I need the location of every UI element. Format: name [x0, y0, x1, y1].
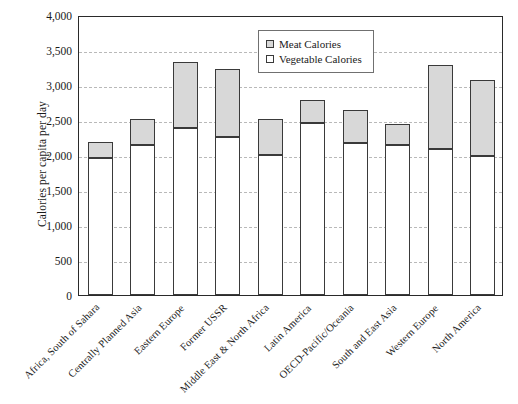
legend-label-vegetable: Vegetable Calories — [279, 53, 362, 65]
x-axis-tick-label: South and East Asia — [330, 302, 399, 371]
x-axis-tick-label: Africa, South of Sahara — [22, 302, 102, 382]
x-axis-tick-label: North America — [430, 302, 483, 355]
bar-segment-meat — [343, 110, 368, 143]
y-axis-tick-label: 3,500 — [10, 45, 72, 57]
bar-2[interactable] — [130, 119, 155, 295]
filled-gray-square-icon — [266, 40, 274, 48]
bar-segment-meat — [428, 65, 453, 149]
bar-segment-meat — [215, 69, 240, 137]
legend-label-meat: Meat Calories — [279, 38, 341, 50]
bar-segment-meat — [130, 119, 155, 146]
x-axis-tick-label: OECD-Pacific/Oceania — [277, 302, 356, 381]
bar-9[interactable] — [428, 65, 453, 295]
legend-item-vegetable: Vegetable Calories — [266, 51, 366, 66]
bar-segment-vegetable — [173, 128, 198, 295]
bar-7[interactable] — [343, 110, 368, 295]
white-square-icon — [266, 55, 274, 63]
y-axis-tick-label: 1,500 — [10, 185, 72, 197]
y-axis-tick-label: 0 — [10, 290, 72, 302]
x-axis-tick-label: Centrally Planned Asia — [66, 302, 144, 380]
bar-segment-meat — [470, 80, 495, 156]
bar-4[interactable] — [215, 69, 240, 295]
bar-segment-vegetable — [385, 145, 410, 296]
bar-segment-meat — [258, 119, 283, 155]
x-axis-tick-label: Latin America — [262, 302, 313, 353]
chart-legend: Meat Calories Vegetable Calories — [258, 30, 374, 73]
bar-segment-vegetable — [343, 143, 368, 295]
y-axis-tick-label: 1,000 — [10, 220, 72, 232]
y-axis-tick-label: 4,000 — [10, 10, 72, 22]
bar-6[interactable] — [300, 100, 325, 295]
y-axis-tick-label: 500 — [10, 255, 72, 267]
bar-segment-vegetable — [258, 155, 283, 295]
bar-segment-vegetable — [88, 158, 113, 295]
x-axis-tick-label: Eastern Europe — [132, 302, 186, 356]
y-axis-tick-label: 2,000 — [10, 150, 72, 162]
bar-segment-meat — [385, 124, 410, 145]
y-axis-tick-label: 3,000 — [10, 80, 72, 92]
y-axis-tick-labels: 4,0003,5003,0002,5002,0001,5001,0005000 — [8, 16, 72, 296]
x-axis-tick-label: Former USSR — [178, 302, 229, 353]
legend-item-meat: Meat Calories — [266, 36, 366, 51]
bar-segment-vegetable — [130, 145, 155, 295]
bar-segment-meat — [88, 142, 113, 157]
bar-segment-vegetable — [300, 123, 325, 295]
bar-1[interactable] — [88, 142, 113, 295]
x-axis-tick-label: Middle East & North Africa — [178, 302, 271, 395]
y-axis-tick-label: 2,500 — [10, 115, 72, 127]
bar-segment-meat — [173, 62, 198, 129]
bar-segment-vegetable — [215, 137, 240, 295]
bar-segment-vegetable — [428, 149, 453, 295]
chart-figure: Calories per capita per day 4,0003,5003,… — [0, 0, 518, 404]
bar-segment-meat — [300, 100, 325, 122]
bar-8[interactable] — [385, 124, 410, 296]
bar-10[interactable] — [470, 80, 495, 295]
x-axis-tick-label: Western Europe — [384, 302, 440, 358]
bar-3[interactable] — [173, 62, 198, 295]
bar-5[interactable] — [258, 119, 283, 295]
bar-segment-vegetable — [470, 156, 495, 295]
